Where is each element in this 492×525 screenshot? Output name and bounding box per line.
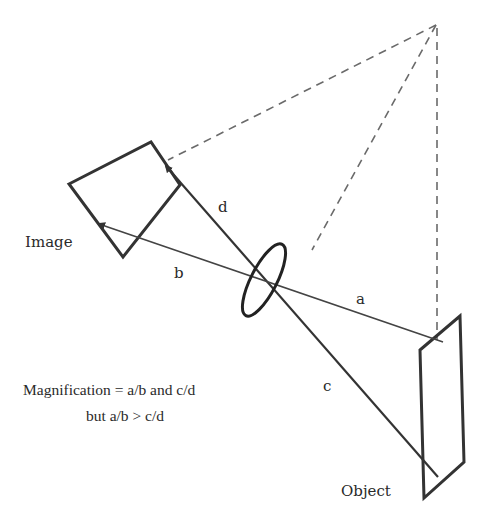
label-object: Object [341,482,391,500]
dashed-line-to-image [168,25,436,160]
magnification-diagram: d b a c Image Object Magnification = a/b… [0,0,492,525]
label-d: d [218,198,228,216]
projection-lines [168,25,437,340]
label-a: a [356,290,365,308]
label-image: Image [25,233,73,251]
caption-line-2: but a/b > c/d [86,407,164,424]
label-c: c [323,377,331,395]
dashed-line-to-lens [312,25,436,250]
ray-d-c [166,166,438,477]
caption-line-1: Magnification = a/b and c/d [23,381,196,398]
label-b: b [174,264,184,282]
ray-b-a [99,224,443,342]
object-plane [420,316,464,498]
image-plane [69,142,180,257]
